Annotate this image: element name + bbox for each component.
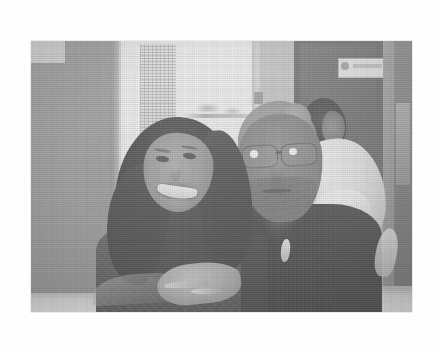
man-eyeglasses-right-lens xyxy=(280,142,317,167)
woman-nose xyxy=(170,166,181,181)
woman-chin xyxy=(162,198,192,212)
left-wall-top-notch xyxy=(31,41,65,63)
man-lens-glint-left xyxy=(250,150,258,157)
door-sign-text-line xyxy=(353,64,382,68)
page-canvas: Black and white photograph of a smiling … xyxy=(0,0,443,355)
window-latch xyxy=(254,92,264,103)
man-lens-glint-right xyxy=(289,148,297,155)
man-eyeglasses-bridge xyxy=(276,151,282,154)
photograph[interactable] xyxy=(31,41,412,312)
right-poster xyxy=(396,103,410,184)
photo-caption xyxy=(31,316,412,336)
distant-boat-shape xyxy=(195,103,222,112)
